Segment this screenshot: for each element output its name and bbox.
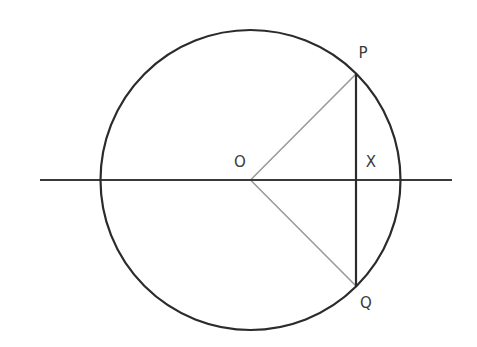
radius-o-p-line	[251, 74, 357, 180]
point-label-x: X	[366, 155, 376, 170]
radius-o-q-line	[251, 180, 357, 286]
geometry-canvas	[0, 0, 477, 347]
point-label-o: O	[234, 155, 246, 170]
circle-geometry-diagram: P X O Q	[0, 0, 477, 347]
point-label-p: P	[358, 46, 367, 61]
point-label-q: Q	[360, 296, 372, 311]
